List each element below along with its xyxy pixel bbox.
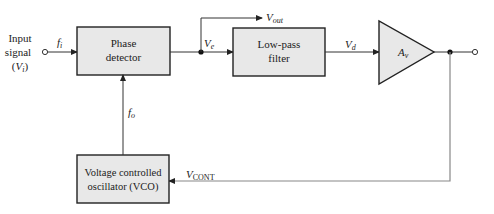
phase-detector-label-1: Phase	[111, 37, 137, 49]
output-terminal	[472, 49, 477, 54]
input-label-line3: (Vi)	[12, 60, 29, 74]
pll-diagram: Input signal (Vi) fi Phase detector Ve V…	[0, 0, 494, 214]
vco-label-2: oscillator (VCO)	[88, 181, 159, 193]
vco-label-1: Voltage controlled	[84, 167, 162, 178]
amplifier-block: Av	[379, 21, 434, 84]
vco-block: Voltage controlled oscillator (VCO)	[77, 155, 169, 203]
input-label-line1: Input	[8, 32, 31, 44]
lpf-label-2: filter	[268, 52, 290, 64]
input-terminal	[42, 49, 47, 54]
phase-detector-block: Phase detector	[77, 27, 170, 75]
vout-label: Vout	[266, 11, 284, 25]
vcont-label: VCONT	[186, 168, 215, 182]
input-label-line2: signal	[5, 46, 31, 58]
fi-label: fi	[57, 36, 62, 50]
phase-detector-label-2: detector	[106, 51, 142, 63]
fo-label: fo	[128, 106, 135, 120]
ve-label: Ve	[204, 37, 215, 51]
low-pass-filter-block: Low-pass filter	[233, 28, 325, 76]
vd-label: Vd	[345, 38, 357, 52]
input-signal-label: Input signal (Vi)	[5, 32, 32, 74]
lpf-label-1: Low-pass	[258, 38, 301, 50]
